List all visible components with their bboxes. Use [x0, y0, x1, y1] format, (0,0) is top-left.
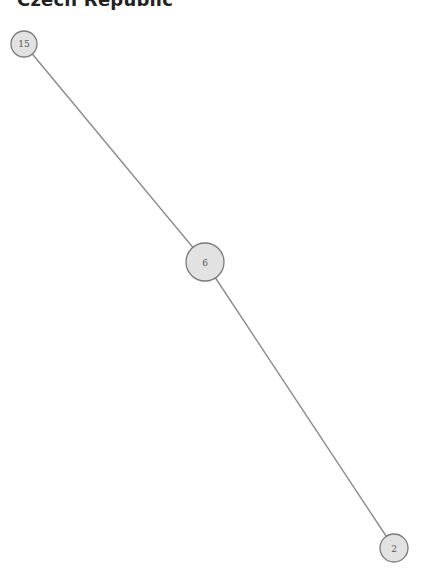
node-15[interactable]: 15: [11, 31, 37, 57]
edge-15-6: [24, 44, 205, 262]
node-label: 15: [18, 39, 30, 49]
nodes: 15 6 2: [11, 31, 408, 562]
edge-6-2: [205, 262, 394, 548]
node-label: 2: [391, 544, 397, 554]
node-6[interactable]: 6: [186, 243, 224, 281]
node-2[interactable]: 2: [380, 534, 408, 562]
network-graph: 15 6 2: [0, 0, 433, 570]
node-label: 6: [202, 258, 208, 268]
edges: [24, 44, 394, 548]
